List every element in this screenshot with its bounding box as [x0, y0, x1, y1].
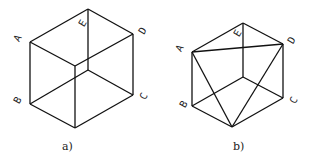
label-b: B [177, 99, 190, 110]
edge-hidden [88, 70, 133, 95]
label-e: E [231, 28, 244, 39]
label-a: A [173, 43, 186, 54]
label-c: C [287, 95, 300, 106]
figure-b: A E D B C b) [173, 23, 300, 153]
diagonal-d-bottom [232, 44, 283, 127]
edge [88, 9, 133, 34]
label-d: D [285, 35, 298, 46]
label-c: C [137, 91, 150, 102]
edge [75, 34, 133, 66]
caption-a: a) [62, 140, 73, 153]
edge [232, 98, 283, 127]
edge [30, 104, 75, 128]
caption-b: b) [233, 140, 244, 153]
diagonal-a-bottom [192, 52, 232, 127]
edge-inner [243, 77, 283, 98]
edge [243, 23, 283, 44]
diagram-canvas: A E D B C a) A E D B C b) [0, 0, 310, 163]
label-b: B [11, 95, 24, 106]
figure-a: A E D B C a) [11, 9, 150, 153]
edge [30, 42, 75, 66]
label-e: E [76, 18, 89, 29]
diagonal-ad [192, 44, 283, 52]
edge-inner [192, 77, 243, 106]
label-d: D [136, 25, 149, 36]
edge [75, 95, 133, 128]
edge-hidden [30, 70, 88, 104]
label-a: A [11, 33, 24, 44]
